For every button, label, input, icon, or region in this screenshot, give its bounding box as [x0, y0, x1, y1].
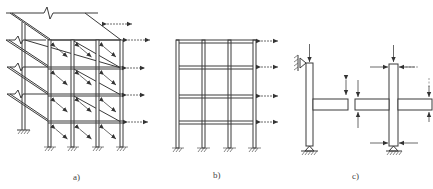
- panel-a-3d-frame: a): [6, 7, 150, 182]
- interior-joint: [355, 45, 432, 155]
- structural-diagram: a) b): [0, 0, 433, 189]
- diagonal-load-arrow: [80, 129, 92, 139]
- diagonal-load-arrow: [56, 129, 68, 139]
- panel-b-plane-frame: b): [172, 40, 278, 180]
- diagonal-load-arrow: [104, 102, 116, 112]
- lateral-load-arrows-a: [107, 24, 150, 122]
- diagonal-load-arrow: [80, 75, 92, 85]
- panel-a-label: a): [73, 172, 80, 182]
- lateral-load-arrows-b: [261, 41, 278, 122]
- frame-b-supports: [172, 148, 261, 152]
- frame-b-beams: [176, 40, 256, 124]
- top-slab: [6, 7, 121, 40]
- diagonal-load-arrow: [104, 47, 116, 57]
- diagonal-load-arrow: [104, 129, 116, 139]
- panel-c-label: c): [352, 171, 359, 181]
- front-supports: [44, 147, 128, 151]
- diagonal-load-arrow: [80, 102, 92, 112]
- diagonal-load-arrow: [104, 75, 116, 85]
- diagonal-load-arrow: [56, 102, 68, 112]
- diagonal-load-arrow: [56, 75, 68, 85]
- panel-c-joint-subassemblies: c): [294, 44, 432, 181]
- panel-b-label: b): [213, 170, 221, 180]
- frame-b-columns: [176, 40, 256, 148]
- diagonal-load-arrow: [80, 47, 92, 57]
- diagonal-load-arrows: [56, 47, 117, 139]
- exterior-joint: [294, 44, 348, 155]
